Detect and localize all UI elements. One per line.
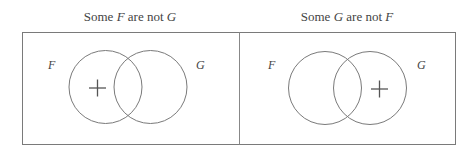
plus-marker-panel-2 [371, 81, 388, 98]
circle-g-panel-2 [334, 52, 407, 125]
label-g-panel-1: G [196, 58, 205, 72]
label-f-panel-1: F [47, 58, 56, 72]
circle-g-panel-1 [114, 51, 187, 124]
label-f-panel-2: F [267, 58, 276, 72]
label-g-panel-2: G [417, 58, 426, 72]
venn-diagrams: F G F G [0, 0, 475, 150]
circle-f-panel-1 [69, 51, 142, 124]
circle-f-panel-2 [289, 52, 362, 125]
plus-marker-panel-1 [89, 80, 106, 97]
